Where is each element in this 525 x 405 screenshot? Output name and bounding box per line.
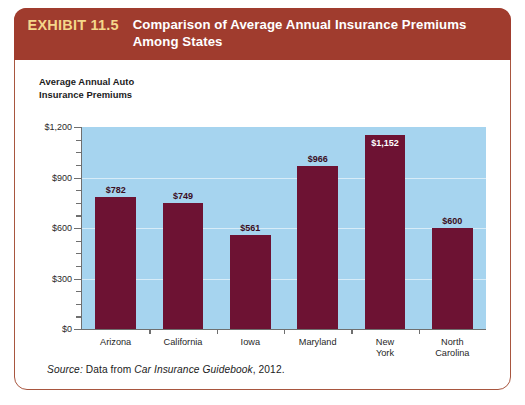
x-axis-tick — [419, 329, 420, 334]
y-axis-tick — [76, 190, 82, 191]
y-axis-tick — [76, 140, 82, 141]
bar-value-label: $561 — [240, 223, 260, 233]
chart-body: Average Annual Auto Insurance Premiums $… — [15, 63, 509, 389]
bar[interactable]: $749 — [163, 203, 203, 329]
bar[interactable]: $561 — [230, 235, 270, 329]
bar[interactable]: $782 — [95, 197, 135, 329]
bar-value-label: $600 — [442, 216, 462, 226]
gridline — [82, 178, 486, 179]
y-axis-tick — [76, 316, 82, 317]
y-axis-tick — [76, 203, 82, 204]
y-axis-title: Average Annual Auto Insurance Premiums — [39, 75, 134, 102]
y-axis-label: $300 — [52, 274, 72, 284]
y-axis-tick — [76, 241, 82, 242]
x-axis-line — [76, 329, 486, 330]
y-axis-tick — [74, 178, 82, 179]
x-axis-tick — [217, 329, 218, 334]
y-axis-tick — [76, 304, 82, 305]
y-axis-title-line-1: Average Annual Auto — [39, 75, 134, 88]
bar-value-label: $966 — [308, 154, 328, 164]
source-text-after: , 2012. — [253, 364, 285, 375]
gridline — [82, 279, 486, 280]
exhibit-header: EXHIBIT 11.5 Comparison of Average Annua… — [14, 8, 511, 60]
y-axis-label: $0 — [62, 324, 72, 334]
source-prefix: Source: — [47, 364, 83, 375]
plot-area: $782$749$561$966$1,152$600 — [82, 127, 486, 329]
x-axis-tick — [351, 329, 352, 334]
x-axis-category-label: Iowa — [241, 337, 260, 348]
x-axis-category-label: New York — [376, 337, 394, 359]
y-axis-tick — [76, 152, 82, 153]
y-axis-tick — [76, 253, 82, 254]
x-axis-tick — [149, 329, 150, 334]
y-axis-tick — [76, 165, 82, 166]
source-text-before: Data from — [83, 364, 135, 375]
bar[interactable]: $1,152 — [365, 135, 405, 329]
x-axis-category-label: Arizona — [100, 337, 131, 348]
exhibit-title: Comparison of Average Annual Insurance P… — [133, 16, 497, 51]
y-axis-tick — [74, 329, 82, 330]
y-axis-label: $600 — [52, 223, 72, 233]
source-note: Source: Data from Car Insurance Guideboo… — [47, 364, 285, 375]
y-axis-label: $900 — [52, 173, 72, 183]
y-axis-tick — [74, 279, 82, 280]
y-axis-label: $1,200 — [44, 122, 72, 132]
plot-wrap: $782$749$561$966$1,152$600 $0$300$600$90… — [68, 125, 486, 333]
y-axis-tick — [76, 266, 82, 267]
gridline — [82, 228, 486, 229]
y-axis-tick — [74, 127, 82, 128]
exhibit-card: EXHIBIT 11.5 Comparison of Average Annua… — [14, 8, 511, 390]
y-axis-tick — [76, 215, 82, 216]
bar-value-label: $1,152 — [371, 138, 399, 148]
x-axis-category-label: California — [164, 337, 203, 348]
y-axis-tick — [76, 291, 82, 292]
y-axis-title-line-2: Insurance Premiums — [39, 88, 134, 101]
x-axis-category-label: North Carolina — [435, 337, 469, 359]
exhibit-number: EXHIBIT 11.5 — [28, 16, 119, 35]
bar-value-label: $749 — [173, 191, 193, 201]
bar-value-label: $782 — [106, 185, 126, 195]
bar[interactable]: $600 — [432, 228, 472, 329]
x-axis-tick — [284, 329, 285, 334]
source-work-title: Car Insurance Guidebook — [134, 364, 252, 375]
bar[interactable]: $966 — [297, 166, 337, 329]
x-axis-category-label: Maryland — [299, 337, 337, 348]
y-axis-tick — [74, 228, 82, 229]
